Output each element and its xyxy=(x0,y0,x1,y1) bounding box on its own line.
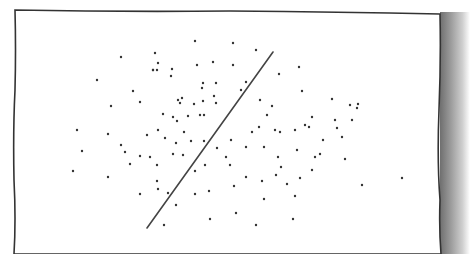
data-point xyxy=(199,114,201,116)
data-point xyxy=(229,164,231,166)
data-point xyxy=(278,73,280,75)
data-point xyxy=(311,169,313,171)
data-point xyxy=(233,185,235,187)
data-point xyxy=(215,82,217,84)
data-point xyxy=(216,147,218,149)
data-point xyxy=(274,129,276,131)
data-point xyxy=(245,176,247,178)
data-point xyxy=(213,95,215,97)
data-point xyxy=(212,61,214,63)
data-point xyxy=(230,139,232,141)
data-point xyxy=(132,90,134,92)
data-point xyxy=(336,127,338,129)
data-point xyxy=(203,140,205,142)
data-point xyxy=(172,153,174,155)
data-point xyxy=(259,99,261,101)
data-point xyxy=(162,113,164,115)
data-point xyxy=(187,115,189,117)
data-point xyxy=(341,136,343,138)
data-point xyxy=(280,166,282,168)
data-point xyxy=(177,99,179,101)
data-point xyxy=(215,102,217,104)
data-point xyxy=(255,49,257,51)
data-point xyxy=(203,114,205,116)
data-point xyxy=(319,153,321,155)
data-point xyxy=(194,170,196,172)
data-point xyxy=(120,144,122,146)
data-point xyxy=(172,116,174,118)
data-point xyxy=(164,137,166,139)
data-point xyxy=(170,75,172,77)
data-point xyxy=(156,69,158,71)
data-point xyxy=(311,116,313,118)
data-point xyxy=(194,40,196,42)
data-point xyxy=(157,129,159,131)
data-point xyxy=(96,79,98,81)
data-point xyxy=(202,100,204,102)
data-point xyxy=(277,156,279,158)
data-point xyxy=(204,164,206,166)
data-point xyxy=(81,150,83,152)
data-point xyxy=(139,155,141,157)
data-point xyxy=(157,188,159,190)
data-point xyxy=(124,151,126,153)
data-point xyxy=(292,218,294,220)
data-point xyxy=(196,64,198,66)
data-point xyxy=(298,66,300,68)
data-point xyxy=(146,134,148,136)
data-point xyxy=(235,212,237,214)
data-point xyxy=(401,177,403,179)
data-point xyxy=(193,103,195,105)
data-point xyxy=(156,180,158,182)
data-point xyxy=(263,198,265,200)
data-point xyxy=(120,56,122,58)
data-point xyxy=(334,119,336,121)
data-point xyxy=(331,98,333,100)
data-point xyxy=(304,124,306,126)
data-point xyxy=(154,52,156,54)
data-point xyxy=(314,156,316,158)
data-point xyxy=(294,195,296,197)
data-point xyxy=(322,139,324,141)
data-point xyxy=(175,142,177,144)
data-point xyxy=(258,126,260,128)
data-point xyxy=(72,170,74,172)
data-point xyxy=(361,184,363,186)
data-point xyxy=(179,102,181,104)
data-point xyxy=(194,193,196,195)
data-point xyxy=(149,156,151,158)
data-point xyxy=(263,146,265,148)
data-point xyxy=(357,103,359,105)
data-point xyxy=(240,89,242,91)
data-point xyxy=(129,163,131,165)
scatter-diagram xyxy=(0,0,470,254)
data-point xyxy=(275,174,277,176)
data-point xyxy=(301,90,303,92)
data-point xyxy=(175,204,177,206)
data-point xyxy=(351,119,353,121)
data-point xyxy=(261,180,263,182)
data-point xyxy=(156,164,158,166)
data-point xyxy=(255,224,257,226)
data-point xyxy=(107,176,109,178)
data-point xyxy=(157,62,159,64)
data-point xyxy=(171,68,173,70)
data-point xyxy=(349,104,351,106)
data-point xyxy=(344,158,346,160)
data-point xyxy=(76,129,78,131)
data-point xyxy=(183,131,185,133)
data-point xyxy=(110,105,112,107)
data-point xyxy=(167,192,169,194)
data-point xyxy=(181,97,183,99)
hand-drawn-frame xyxy=(14,10,441,254)
data-point xyxy=(208,190,210,192)
data-point xyxy=(308,126,310,128)
data-point xyxy=(294,129,296,131)
data-point xyxy=(201,87,203,89)
data-point xyxy=(152,69,154,71)
data-point xyxy=(356,107,358,109)
data-point xyxy=(245,81,247,83)
data-point xyxy=(139,101,141,103)
data-point xyxy=(251,131,253,133)
data-point xyxy=(232,42,234,44)
